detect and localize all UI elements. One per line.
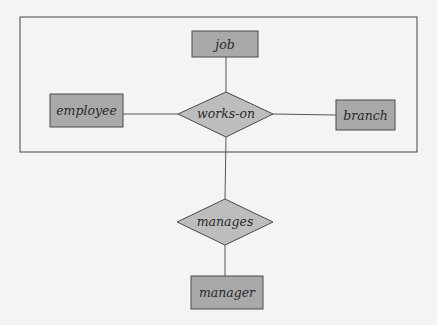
entity-employee-label: employee [56,103,117,118]
entity-job-label: job [212,37,234,52]
er-diagram: job employee works-on branch manages man… [0,0,437,325]
edge-aggregation-manages [225,137,226,199]
relationship-works-on[interactable]: works-on [178,92,273,137]
relationship-works-on-label: works-on [197,106,255,121]
entity-branch[interactable]: branch [336,100,395,130]
entity-manager[interactable]: manager [191,276,263,309]
entity-job[interactable]: job [192,31,258,57]
entity-employee[interactable]: employee [50,94,123,127]
relationship-manages[interactable]: manages [177,199,273,245]
entity-manager-label: manager [199,285,256,300]
entity-branch-label: branch [343,108,388,123]
edge-workson-branch [273,114,336,115]
relationship-manages-label: manages [197,214,254,229]
